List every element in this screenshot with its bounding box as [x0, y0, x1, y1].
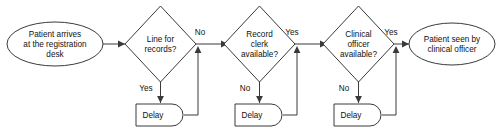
node-decision-record-clerk-available[interactable]: Record clerk available? [224, 6, 295, 82]
node-decision3-line-1: Clinical [345, 30, 372, 39]
node-delay-1-label: Delay [143, 111, 165, 120]
node-decision2-line-3: available? [241, 50, 278, 59]
node-start[interactable]: Patient arrives at the registration desk [7, 22, 103, 66]
edge-label-decision2-no: No [240, 84, 251, 93]
edge-decision3-yes-to-end [394, 41, 409, 48]
edge-label-decision1-yes: Yes [139, 84, 152, 93]
node-start-line-2: at the registration [23, 40, 87, 49]
node-decision-line-for-records[interactable]: Line for records? [125, 6, 196, 82]
edge-start-to-decision1 [103, 41, 125, 48]
node-decision2-line-1: Record [246, 30, 273, 39]
edge-label-decision3-no: No [339, 84, 350, 93]
node-delay-3-label: Delay [341, 111, 363, 120]
node-delay-1[interactable]: Delay [136, 104, 183, 126]
node-decision3-line-3: available? [340, 50, 377, 59]
node-start-line-1: Patient arrives [29, 30, 81, 39]
flowchart-canvas: Patient arrives at the registration desk… [0, 0, 498, 133]
node-delay-2[interactable]: Delay [235, 104, 282, 126]
edge-label-decision1-no: No [195, 28, 206, 37]
edge-delay3-return [382, 46, 399, 115]
edge-delay1-return [184, 46, 201, 115]
node-decision-clinical-officer-available[interactable]: Clinical officer available? [323, 6, 394, 82]
edge-label-decision3-yes: Yes [384, 28, 397, 37]
edge-decision2-yes-to-decision3 [295, 41, 327, 48]
edge-decision1-no-to-decision2 [196, 41, 228, 48]
flowchart-svg: Patient arrives at the registration desk… [0, 0, 498, 133]
node-delay-2-label: Delay [242, 111, 264, 120]
node-decision2-line-2: clerk [251, 40, 269, 49]
edge-delay2-return [283, 46, 300, 115]
node-end-line-1: Patient seen by [424, 35, 481, 44]
node-decision1-line-1: Line for [147, 35, 175, 44]
node-end-line-2: clinical officer [428, 45, 477, 54]
node-decision3-line-2: officer [347, 40, 369, 49]
node-start-line-3: desk [46, 50, 64, 59]
node-delay-3[interactable]: Delay [334, 104, 381, 126]
node-end[interactable]: Patient seen by clinical officer [409, 23, 495, 65]
edge-label-decision2-yes: Yes [285, 28, 298, 37]
node-decision1-line-2: records? [145, 45, 177, 54]
